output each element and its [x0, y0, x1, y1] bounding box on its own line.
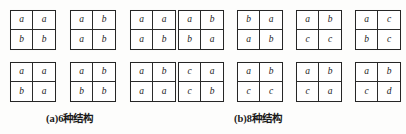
- grid-cell: c: [378, 11, 400, 30]
- grid-cell: a: [131, 63, 153, 82]
- grid-cell: c: [179, 63, 201, 82]
- grid-cell: a: [319, 82, 341, 101]
- grid-cell: c: [179, 82, 201, 101]
- grid-cell: a: [201, 30, 223, 49]
- grid-cell: c: [378, 30, 400, 49]
- panel-b-row-bottom: c a c b a b c c a b c a a b c d: [174, 62, 406, 102]
- grid-cell: a: [356, 11, 378, 30]
- grid: a b b a: [178, 10, 224, 50]
- grid: a a b b: [10, 10, 56, 50]
- grid-cell: b: [93, 11, 115, 30]
- grid-cell: b: [260, 30, 282, 49]
- grid-cell: b: [93, 30, 115, 49]
- grid: a b c c: [296, 10, 342, 50]
- grid-cell: b: [33, 30, 55, 49]
- grid-cell: c: [356, 82, 378, 101]
- grid-cell: b: [153, 63, 175, 82]
- grid-cell: a: [153, 11, 175, 30]
- grid-cell: b: [71, 82, 93, 101]
- grid-cell: a: [71, 63, 93, 82]
- grid: a b c c: [237, 62, 283, 102]
- grid-cell: a: [260, 11, 282, 30]
- grid-cell: b: [153, 30, 175, 49]
- grid-cell: a: [179, 11, 201, 30]
- grid-cell: b: [93, 63, 115, 82]
- grid: a a b a: [10, 62, 56, 102]
- panel-a-row-top: a a b b a b a b a a a b: [0, 10, 190, 50]
- grid-cell: a: [201, 63, 223, 82]
- grid: a b c d: [355, 62, 401, 102]
- grid-cell: a: [131, 11, 153, 30]
- grid-cell: b: [11, 30, 33, 49]
- grid-cell: b: [179, 30, 201, 49]
- grid-cell: b: [319, 11, 341, 30]
- grid: c a c b: [178, 62, 224, 102]
- grid-cell: a: [153, 82, 175, 101]
- grid-cell: a: [33, 63, 55, 82]
- grid: a b c a: [296, 62, 342, 102]
- grid-cell: b: [319, 63, 341, 82]
- grid-cell: a: [238, 63, 260, 82]
- grid: a a a b: [130, 10, 176, 50]
- grid-cell: d: [378, 82, 400, 101]
- grid-cell: a: [238, 30, 260, 49]
- grid: b a a b: [237, 10, 283, 50]
- grid-cell: a: [71, 30, 93, 49]
- grid: a b a b: [70, 10, 116, 50]
- panel-a-caption: (a)6种结构: [46, 110, 94, 125]
- grid-cell: c: [260, 82, 282, 101]
- panel-b-row-top: a b b a b a a b a b c c a c b c: [174, 10, 406, 50]
- grid-cell: a: [297, 63, 319, 82]
- grid-cell: a: [33, 82, 55, 101]
- grid-cell: a: [11, 11, 33, 30]
- grid-cell: a: [11, 63, 33, 82]
- panel-a-row-bottom: a a b a a b b b a b a a: [0, 62, 190, 102]
- grid-cell: a: [131, 82, 153, 101]
- grid-cell: b: [356, 30, 378, 49]
- grid-cell: b: [260, 63, 282, 82]
- grid-cell: b: [11, 82, 33, 101]
- grid-cell: c: [297, 30, 319, 49]
- grid-cell: b: [238, 11, 260, 30]
- grid-cell: a: [71, 11, 93, 30]
- grid-cell: a: [356, 63, 378, 82]
- grid: a c b c: [355, 10, 401, 50]
- grid-cell: c: [319, 30, 341, 49]
- grid-cell: b: [201, 11, 223, 30]
- grid-cell: a: [33, 11, 55, 30]
- grid: a b a a: [130, 62, 176, 102]
- grid-cell: b: [201, 82, 223, 101]
- grid-cell: b: [93, 82, 115, 101]
- grid-cell: a: [297, 11, 319, 30]
- grid-cell: b: [378, 63, 400, 82]
- grid-cell: c: [297, 82, 319, 101]
- grid-cell: a: [131, 30, 153, 49]
- panel-b-caption: (b)8种结构: [234, 110, 282, 125]
- grid-cell: c: [238, 82, 260, 101]
- grid: a b b b: [70, 62, 116, 102]
